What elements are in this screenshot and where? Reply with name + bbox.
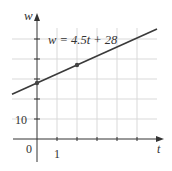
y-tick-label-10: 10: [15, 113, 27, 127]
chart: w t w = 4.5t + 28 0 1 10: [0, 0, 172, 171]
y-axis-label: w: [24, 8, 33, 23]
y-axis-arrow-icon: [34, 13, 40, 21]
data-point: [35, 81, 39, 85]
x-tick-label-1: 1: [54, 147, 60, 161]
tick-marks: [34, 39, 137, 141]
origin-label: 0: [26, 142, 32, 156]
equation-label: w = 4.5t + 28: [48, 33, 118, 47]
data-point: [75, 63, 79, 67]
x-axis-label: t: [157, 142, 161, 156]
